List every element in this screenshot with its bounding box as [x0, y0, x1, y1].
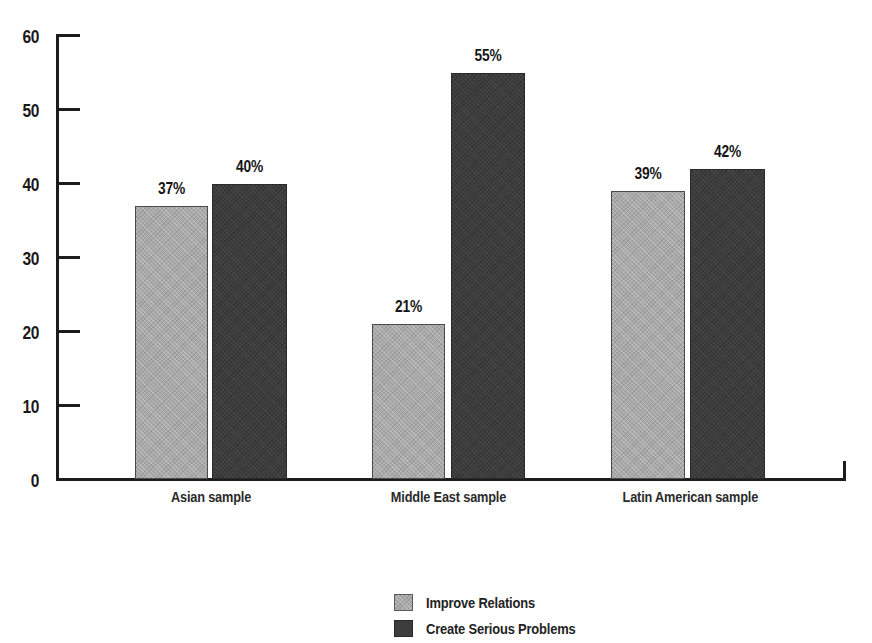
bar-value-middle-east-create-serious-problems: 55% [456, 48, 520, 64]
bar-asian-improve-relations [135, 206, 208, 479]
bar-value-latin-american-create-serious-problems: 42% [695, 144, 760, 160]
bar-latin-american-create-serious-problems [690, 169, 765, 479]
bar-middle-east-create-serious-problems [451, 73, 525, 479]
chart-legend: Improve Relations Create Serious Problem… [394, 592, 600, 643]
legend-swatch-icon-improve-relations [394, 594, 413, 611]
bar-value-middle-east-improve-relations: 21% [377, 299, 440, 315]
legend-label-create-serious-problems: Create Serious Problems [426, 621, 575, 636]
legend-item-improve-relations: Improve Relations [394, 592, 600, 613]
legend-label-improve-relations: Improve Relations [426, 595, 535, 610]
plot-area: 60 50 40 30 20 10 0 37% 40% 21% 55% 39% … [0, 0, 872, 520]
bar-chart: 60 50 40 30 20 10 0 37% 40% 21% 55% 39% … [0, 0, 872, 643]
bar-middle-east-improve-relations [372, 324, 445, 479]
bar-asian-create-serious-problems [212, 184, 287, 479]
x-axis-category-asian-sample: Asian sample [146, 489, 275, 504]
x-axis-category-middle-east-sample: Middle East sample [383, 489, 513, 504]
bar-latin-american-improve-relations [611, 191, 685, 479]
bar-value-asian-improve-relations: 37% [140, 181, 203, 197]
legend-item-create-serious-problems: Create Serious Problems [394, 618, 600, 639]
bar-value-latin-american-improve-relations: 39% [616, 166, 680, 182]
x-axis-category-latin-american-sample: Latin American sample [623, 489, 754, 504]
bars-layer [0, 0, 872, 479]
legend-swatch-icon-create-serious-problems [394, 620, 413, 637]
bar-value-asian-create-serious-problems: 40% [217, 159, 282, 175]
